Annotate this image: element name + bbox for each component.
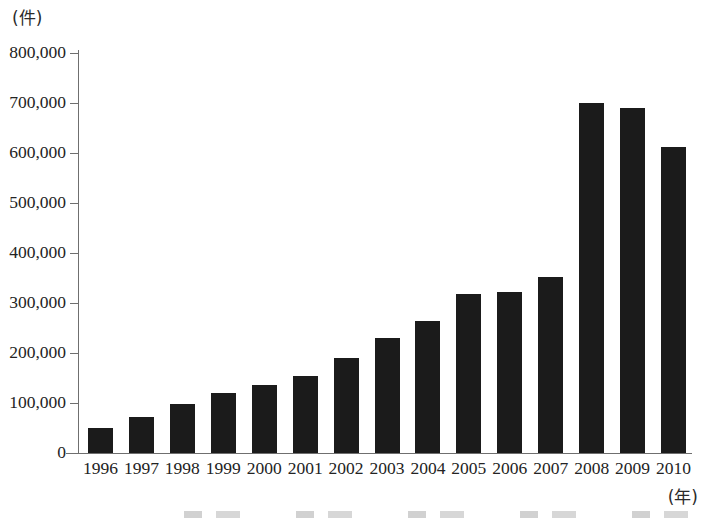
- bar: [456, 294, 481, 453]
- bar: [375, 338, 400, 453]
- y-axis-tick: [70, 403, 78, 404]
- y-axis-tick: [70, 303, 78, 304]
- y-axis-tick-label: 200,000: [0, 342, 66, 363]
- bar: [211, 393, 236, 453]
- x-axis-tick-label: 2005: [447, 458, 491, 479]
- y-axis-tick-label: 100,000: [0, 392, 66, 413]
- y-axis-tick: [70, 353, 78, 354]
- y-axis-tick-label: 500,000: [0, 192, 66, 213]
- x-axis-tick-label: 1996: [78, 458, 122, 479]
- bar: [88, 428, 113, 453]
- y-axis-tick-label: 800,000: [0, 42, 66, 63]
- y-axis-tick: [70, 53, 78, 54]
- bar: [334, 358, 359, 453]
- y-axis-tick-label: 600,000: [0, 142, 66, 163]
- x-axis-tick-label: 1998: [160, 458, 204, 479]
- y-axis-tick: [70, 203, 78, 204]
- y-axis-tick-label: 0: [0, 442, 66, 463]
- bars-group: [78, 53, 692, 453]
- x-axis-tick-label: 2010: [652, 458, 696, 479]
- y-axis-tick: [70, 453, 78, 454]
- x-axis-tick-label: 2003: [365, 458, 409, 479]
- x-axis-tick-label: 2008: [570, 458, 614, 479]
- bar: [415, 321, 440, 454]
- bar: [497, 292, 522, 453]
- y-axis-tick-label: 700,000: [0, 92, 66, 113]
- x-axis-tick-label: 2009: [611, 458, 655, 479]
- x-axis-tick-label: 2004: [406, 458, 450, 479]
- x-axis-tick-label: 2006: [488, 458, 532, 479]
- bar: [170, 404, 195, 453]
- y-axis-tick: [70, 103, 78, 104]
- bar: [129, 417, 154, 453]
- x-axis-tick-label: 1997: [119, 458, 163, 479]
- bar: [538, 277, 563, 453]
- x-axis-tick-label: 2000: [242, 458, 286, 479]
- x-axis-tick-label: 2002: [324, 458, 368, 479]
- bar: [661, 147, 686, 453]
- scan-artifact: [150, 511, 695, 518]
- y-axis-unit-label: (件): [12, 4, 42, 29]
- bar: [620, 108, 645, 453]
- x-axis-tick-label: 2007: [529, 458, 573, 479]
- x-axis-line: [66, 453, 692, 454]
- bar: [579, 103, 604, 453]
- y-axis-tick-label: 300,000: [0, 292, 66, 313]
- x-axis-tick-labels: 1996199719981999200020012002200320042005…: [78, 458, 692, 484]
- x-axis-unit-label: (年): [668, 483, 698, 508]
- bar-chart: (件) 0100,000200,000300,000400,000500,000…: [0, 0, 706, 521]
- y-axis-tick: [70, 253, 78, 254]
- y-axis-tick: [70, 153, 78, 154]
- x-axis-tick-label: 1999: [201, 458, 245, 479]
- y-axis-tick-label: 400,000: [0, 242, 66, 263]
- x-axis-tick-label: 2001: [283, 458, 327, 479]
- bar: [252, 385, 277, 453]
- bar: [293, 376, 318, 453]
